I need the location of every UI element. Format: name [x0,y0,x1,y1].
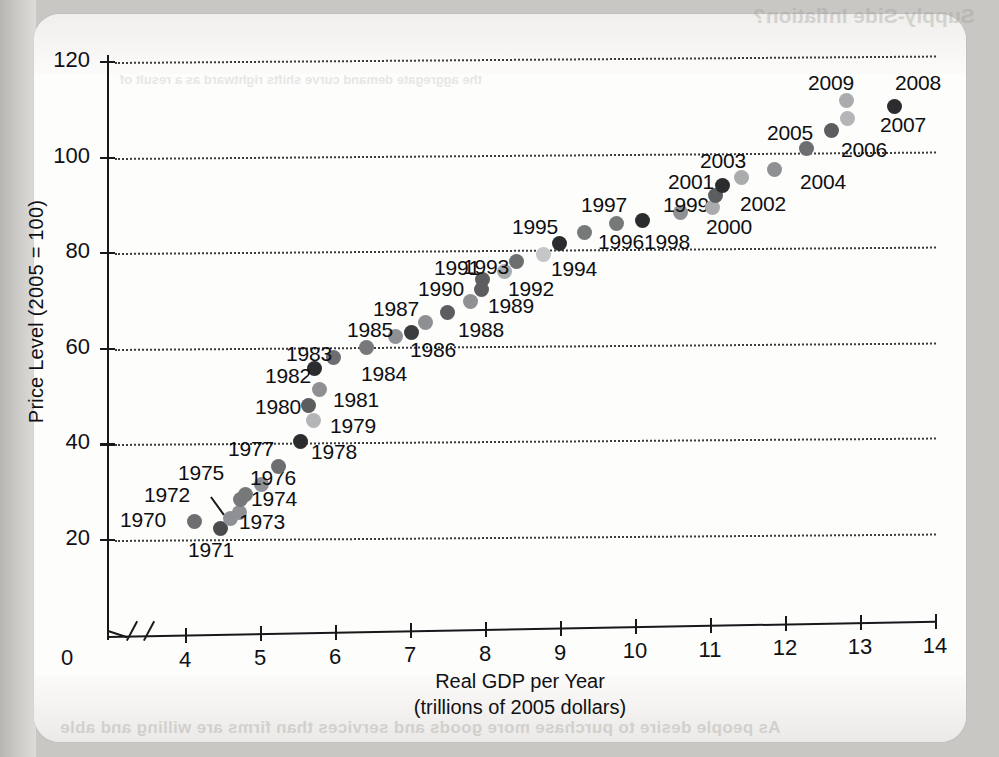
data-label-1999: 1999 [663,193,709,217]
data-point-2004 [767,162,782,177]
data-label-1987: 1987 [373,297,419,321]
data-point-2006 [824,123,839,138]
data-point-1994 [536,247,551,262]
y-axis-title: Price Level (2005 = 100) [25,172,48,452]
data-point-1987 [418,315,433,330]
x-tick-label-13: 13 [840,634,880,660]
x-tick-7 [410,623,412,638]
y-tick-80 [100,252,115,254]
data-label-1986: 1986 [410,338,456,362]
data-point-1970 [187,514,202,529]
data-label-2008: 2008 [895,71,941,95]
y-tick-40 [100,443,115,445]
data-label-1990: 1990 [418,277,464,301]
y-tick-100 [100,157,115,159]
data-label-1975: 1975 [178,461,224,485]
data-label-2003: 2003 [700,149,746,173]
data-label-1992: 1992 [508,277,554,301]
y-tick-label-20: 20 [44,525,90,551]
data-label-1981: 1981 [333,388,379,412]
data-point-1988 [440,305,455,320]
data-label-1997: 1997 [581,193,627,217]
x-tick-12 [785,616,787,631]
data-label-1984: 1984 [361,362,407,386]
data-point-2007 [840,111,855,126]
data-point-1998 [635,213,650,228]
data-point-1978 [293,434,308,449]
x-tick-label-8: 8 [465,641,505,667]
x-tick-11 [710,618,712,633]
data-label-1970: 1970 [120,508,166,532]
x-axis-title-sub: (trillions of 2005 dollars) [340,694,700,720]
x-tick-label-14: 14 [915,633,955,659]
x-tick-10 [635,619,637,634]
x-tick-label-6: 6 [315,644,355,670]
y-tick-60 [100,348,115,350]
data-label-2007: 2007 [880,113,926,137]
axis-break-slash-2 [143,621,155,642]
y-tick-label-120: 120 [44,47,90,73]
x-tick-label-7: 7 [390,642,430,668]
gridline-80 [115,247,936,255]
data-label-1988: 1988 [458,318,504,342]
x-tick-label-5: 5 [240,645,280,671]
gridline-20 [115,534,936,542]
data-label-1994: 1994 [551,257,597,281]
x-tick-label-11: 11 [690,637,730,663]
data-label-2001: 2001 [668,170,714,194]
data-point-2002 [715,178,730,193]
x-tick-4 [185,628,187,643]
gridline-60 [115,342,936,350]
data-point-1993 [509,254,524,269]
data-label-1978: 1978 [311,440,357,464]
data-label-1972: 1972 [144,483,190,507]
data-label-1971: 1971 [188,538,234,562]
x-tick-8 [485,622,487,637]
x-axis-line [108,621,936,639]
x-tick-6 [335,625,337,640]
y-tick-label-60: 60 [44,334,90,360]
gridline-120 [115,56,936,64]
data-point-1997 [609,216,624,231]
data-label-1995: 1995 [512,215,558,239]
data-label-2002: 2002 [740,192,786,216]
y-tick-label-40: 40 [44,429,90,455]
data-label-2000: 2000 [706,215,752,239]
y-tick-120 [100,61,115,63]
axis-break-slash-1 [126,621,138,642]
x-tick-14 [935,614,937,629]
data-label-1996: 1996 [598,230,644,254]
data-label-2006: 2006 [841,138,887,162]
x-tick-label-9: 9 [540,640,580,666]
leader-line-1972 [210,496,225,515]
x-tick-label-10: 10 [615,638,655,664]
x-tick-label-12: 12 [765,635,805,661]
data-label-1977: 1977 [228,437,274,461]
data-label-1982: 1982 [265,364,311,388]
x-axis-title: Real GDP per Year (trillions of 2005 dol… [340,668,700,721]
data-label-1980: 1980 [255,395,301,419]
y-tick-20 [100,539,115,541]
data-point-1984 [359,340,374,355]
x-axis-origin-label: 0 [47,645,87,671]
data-point-1979 [306,413,321,428]
data-label-2004: 2004 [800,170,846,194]
data-point-1989 [463,294,478,309]
data-point-1996 [577,225,592,240]
y-tick-label-80: 80 [44,238,90,264]
data-label-1985: 1985 [347,318,393,342]
data-label-1983: 1983 [286,342,332,366]
data-label-1973: 1973 [239,510,285,534]
data-label-2009: 2009 [808,71,854,95]
data-label-2005: 2005 [767,121,813,145]
scatter-chart: 20406080100120 4567891011121314 19701971… [0,0,999,757]
x-tick-9 [560,621,562,636]
x-tick-label-4: 4 [165,647,205,673]
data-label-1993: 1993 [463,255,509,279]
data-label-1979: 1979 [330,414,376,438]
data-point-2009 [839,93,854,108]
data-label-1998: 1998 [644,230,690,254]
data-point-1981 [312,382,327,397]
x-tick-5 [260,626,262,641]
x-tick-13 [860,615,862,630]
